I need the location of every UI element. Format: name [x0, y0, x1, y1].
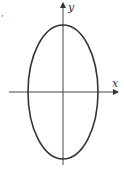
y-axis-label: y: [68, 2, 74, 13]
x-axis-label: x: [112, 78, 118, 89]
ellipse-diagram: [0, 0, 124, 171]
stray-punctuation: ,: [1, 9, 4, 18]
